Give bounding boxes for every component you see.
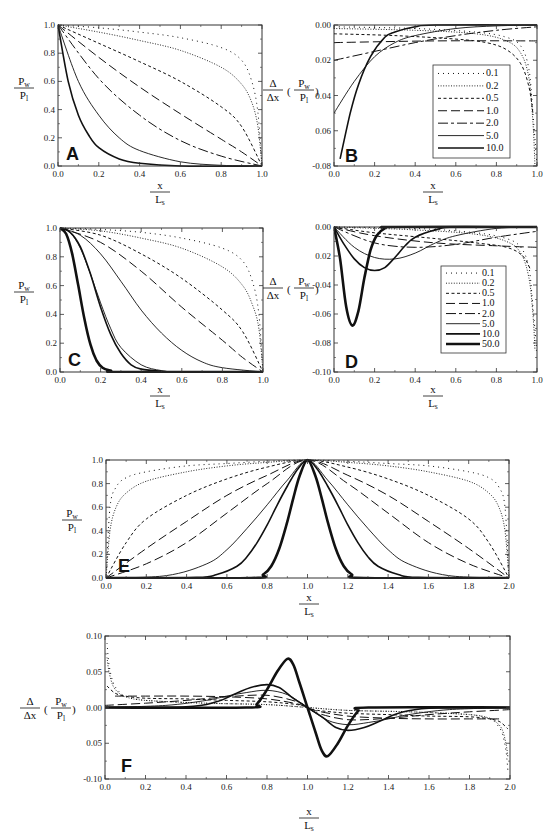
x-tick-label: 0.4 [410, 169, 422, 179]
x-axis-label: xLs [423, 179, 443, 207]
x-tick-label: 0.2 [140, 782, 151, 792]
series-line-1-0 [60, 228, 263, 372]
series-line-0-1 [106, 460, 509, 578]
series-group [58, 25, 262, 166]
plot-frame [334, 227, 537, 372]
y-axis-label: ΔΔx(PwPl) [20, 695, 76, 723]
x-tick-label: 0.6 [221, 581, 233, 591]
y-tick-label: 0.2 [44, 133, 55, 143]
x-axis-label: xLs [299, 805, 319, 833]
series-line-0-2 [106, 460, 509, 578]
series-line-2-0 [60, 228, 263, 372]
x-tick-label: 2.0 [504, 782, 516, 792]
series-line-1-0 [334, 41, 537, 43]
series-line-2-0 [106, 460, 509, 578]
x-tick-label: 0.6 [175, 169, 187, 179]
legend: 0.10.20.51.02.05.010.0 [433, 65, 510, 158]
svg-text:Pl: Pl [300, 289, 308, 303]
x-tick-label: 1.0 [257, 375, 269, 385]
series-line-0-5 [58, 25, 262, 166]
y-tick-label: 0.8 [92, 479, 104, 489]
legend-entry: 5.0 [486, 130, 499, 141]
svg-text:x: x [306, 805, 312, 817]
x-tick-label: 0.4 [134, 169, 146, 179]
series-line-5-0 [334, 227, 537, 259]
fraction-label: PwPl [51, 695, 71, 723]
plot-frame [60, 228, 263, 372]
panel-letter: F [121, 756, 132, 776]
svg-text:(: ( [44, 703, 48, 716]
svg-text:Pl: Pl [68, 521, 76, 535]
y-tick-label: 0.4 [46, 309, 58, 319]
x-tick-label: 0.2 [141, 581, 152, 591]
fraction-label: ΔΔx [263, 77, 283, 103]
svg-text:x: x [157, 383, 163, 395]
y-tick-label: 0.05 [86, 738, 102, 748]
series-line-50-0 [106, 460, 509, 578]
svg-text:Pl: Pl [300, 91, 308, 105]
y-tick-label: 0.0 [44, 161, 56, 171]
x-tick-label: 0.4 [180, 782, 192, 792]
chart-panel-b: 0.00.20.40.60.81.00.000.020.040.06-0.08x… [263, 20, 543, 207]
panel-letter: A [66, 144, 79, 164]
svg-text:x: x [430, 179, 436, 191]
y-tick-label: -0.08 [312, 161, 331, 171]
svg-text:Δ: Δ [26, 695, 33, 707]
svg-text:): ) [315, 283, 319, 296]
panel-letter: E [118, 556, 130, 576]
legend-entry: 50.0 [482, 338, 500, 349]
y-tick-label: 0.0 [92, 573, 104, 583]
y-tick-label: 0.00 [315, 20, 331, 30]
x-tick-label: 0.8 [491, 375, 503, 385]
series-line-2-0 [58, 25, 262, 166]
legend-entry: 0.5 [486, 92, 499, 103]
svg-text:Ls: Ls [304, 605, 314, 619]
panel-letter: D [345, 352, 358, 372]
x-tick-label: 0.8 [262, 581, 274, 591]
x-tick-label: 0.2 [369, 375, 380, 385]
y-tick-label: 0.06 [315, 126, 331, 136]
series-line-1-0 [106, 460, 509, 578]
series-line-0-5 [106, 460, 509, 578]
x-tick-label: 1.6 [423, 782, 435, 792]
x-tick-label: 1.8 [464, 782, 476, 792]
svg-text:Pl: Pl [57, 709, 65, 723]
y-tick-label: 0.02 [315, 251, 331, 261]
x-tick-label: 1.2 [342, 581, 353, 591]
chart-panel-d: 0.00.20.40.60.81.00.000.02-0.04-0.06-0.0… [263, 222, 543, 411]
x-tick-label: 0.8 [491, 169, 503, 179]
series-line-0-5 [60, 228, 263, 372]
chart-panel-f: 0.00.20.40.60.81.01.21.41.61.82.00.100.0… [20, 631, 516, 833]
plot-frame [106, 460, 509, 578]
svg-text:x: x [430, 383, 436, 395]
chart-panel-e: 0.00.20.40.60.81.01.21.41.61.82.00.00.20… [62, 455, 515, 619]
series-group [105, 643, 510, 772]
panel-letter: C [68, 350, 81, 370]
legend-entry: 1.0 [486, 105, 499, 116]
y-tick-label: 0.8 [46, 252, 58, 262]
svg-text:Pw: Pw [55, 695, 67, 709]
legend-entry: 2.0 [486, 117, 499, 128]
y-tick-label: -0.10 [312, 367, 331, 377]
series-group [106, 460, 509, 578]
x-tick-label: 0.6 [176, 375, 188, 385]
svg-text:(: ( [287, 85, 291, 98]
x-tick-label: 0.6 [450, 375, 462, 385]
x-tick-label: 1.6 [423, 581, 435, 591]
y-tick-label: -0.08 [312, 338, 331, 348]
x-tick-label: 1.8 [463, 581, 475, 591]
series-group [334, 227, 537, 353]
fraction-label: ΔΔx [20, 695, 40, 721]
x-tick-label: 1.0 [531, 375, 543, 385]
x-tick-label: 0.2 [369, 169, 380, 179]
y-axis-label: PwPl [14, 279, 34, 307]
series-line-50-0 [334, 227, 537, 326]
x-tick-label: 1.0 [531, 169, 543, 179]
x-tick-label: 0.6 [221, 782, 233, 792]
x-tick-label: 1.0 [302, 782, 314, 792]
x-tick-label: 1.2 [342, 782, 353, 792]
fraction-label: PwPl [294, 77, 314, 105]
plot-frame [58, 25, 262, 166]
y-tick-label: 0.02 [315, 55, 331, 65]
series-line-0-2 [58, 25, 262, 166]
